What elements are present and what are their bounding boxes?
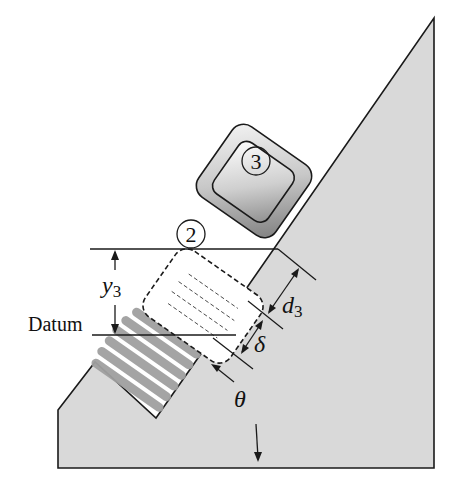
y3-label: y3 xyxy=(100,272,121,301)
incline-spring-diagram: 3 2 y3 Datum d3 δ θ xyxy=(0,0,458,495)
theta-label: θ xyxy=(234,386,246,412)
incline-ground xyxy=(58,18,434,468)
delta-label: δ xyxy=(254,331,266,357)
datum-label: Datum xyxy=(28,313,83,335)
block-3-label: 3 xyxy=(251,149,262,174)
block-2-label: 2 xyxy=(186,222,197,247)
